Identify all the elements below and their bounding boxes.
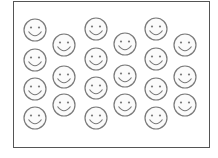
smiley-face-icon [24,78,46,100]
smiley-face-icon [53,66,75,88]
smiley-face-icon [174,94,196,116]
smiley-face-icon [174,34,196,56]
smiley-faces-group [0,0,218,158]
smiley-face-icon [114,33,136,55]
smiley-face-icon [145,107,167,129]
smiley-face-icon [24,49,46,71]
smiley-face-icon [145,48,167,70]
smiley-face-icon [53,34,75,56]
smiley-face-icon [145,18,167,40]
smiley-face-icon [174,66,196,88]
smiley-face-icon [85,107,107,129]
smiley-face-icon [85,48,107,70]
smiley-face-icon [114,65,136,87]
smiley-face-icon [85,77,107,99]
smiley-face-icon [24,107,46,129]
smiley-face-icon [145,78,167,100]
smiley-face-icon [53,94,75,116]
smiley-face-icon [85,18,107,40]
smiley-face-icon [114,94,136,116]
smiley-face-icon [24,19,46,41]
